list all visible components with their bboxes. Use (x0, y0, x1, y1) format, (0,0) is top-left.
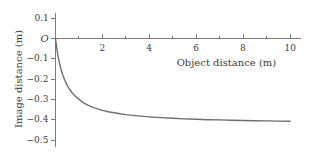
data-curve (56, 39, 291, 122)
y-tick-label: −0.1 (27, 54, 49, 63)
x-tick-label: 10 (285, 44, 296, 53)
axes-group (51, 13, 301, 147)
y-tick-label: −0.5 (27, 136, 49, 145)
chart-figure: 2 4 6 8 10 0.1 O −0.1 −0.2 −0.3 −0.4 −0.… (0, 0, 311, 161)
x-tick-label: 4 (146, 44, 152, 53)
x-tick-label: 2 (99, 44, 105, 53)
y-axis-title: Image distance (m) (14, 30, 24, 128)
y-tick-label: −0.2 (27, 75, 49, 84)
x-tick-label: 6 (193, 44, 199, 53)
y-origin-label: O (41, 34, 49, 44)
data-curve-group (56, 39, 291, 122)
y-tick-label: −0.4 (27, 115, 49, 124)
x-axis-title: Object distance (m) (177, 58, 277, 68)
y-tick-label: −0.3 (27, 95, 49, 104)
y-tick-label: 0.1 (35, 14, 49, 23)
x-tick-label: 8 (240, 44, 246, 53)
